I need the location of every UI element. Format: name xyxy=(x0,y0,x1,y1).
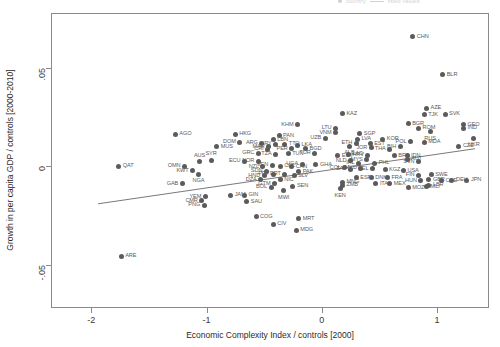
data-point-label: ECU xyxy=(229,158,241,164)
data-point[interactable] xyxy=(190,168,195,173)
data-point[interactable] xyxy=(422,140,427,145)
y-tick-label: -.05 xyxy=(37,265,47,281)
data-point[interactable] xyxy=(347,144,352,149)
data-point[interactable] xyxy=(271,172,276,177)
chart-legend: country fitted values xyxy=(338,0,420,5)
data-point[interactable] xyxy=(333,130,338,135)
data-point[interactable] xyxy=(406,121,411,126)
data-point-label: THA xyxy=(375,147,386,153)
data-point-label: SAU xyxy=(251,199,262,205)
data-point[interactable] xyxy=(312,151,317,156)
data-point[interactable] xyxy=(323,136,328,141)
x-tick-mark xyxy=(207,308,208,313)
data-point[interactable] xyxy=(418,178,423,183)
data-point[interactable] xyxy=(173,132,178,137)
data-point-label: ZMB xyxy=(346,183,358,189)
data-point-label: GRC xyxy=(242,150,254,156)
data-point[interactable] xyxy=(416,159,421,164)
data-point[interactable] xyxy=(383,167,388,172)
data-point[interactable] xyxy=(313,162,318,167)
data-point[interactable] xyxy=(296,216,301,221)
data-point-label: UZB xyxy=(310,135,321,141)
data-point-label: PNG xyxy=(188,202,200,208)
data-point[interactable] xyxy=(197,159,202,164)
data-point[interactable] xyxy=(269,185,274,190)
data-point-label: KGZ xyxy=(389,167,400,173)
data-point[interactable] xyxy=(278,177,283,182)
data-point-label: NGA xyxy=(192,178,204,184)
data-point[interactable] xyxy=(422,112,427,117)
data-point-label: BOL xyxy=(256,184,267,190)
data-point[interactable] xyxy=(456,144,461,149)
data-point-label: BLR xyxy=(447,72,458,78)
data-point[interactable] xyxy=(387,147,392,152)
data-point[interactable] xyxy=(416,126,421,131)
data-point[interactable] xyxy=(443,112,448,117)
data-point-label: DZA xyxy=(246,177,257,183)
data-point[interactable] xyxy=(214,144,219,149)
data-point[interactable] xyxy=(270,163,275,168)
data-point-label: CIV xyxy=(277,222,286,228)
data-point[interactable] xyxy=(392,153,397,158)
data-point[interactable] xyxy=(119,254,124,259)
data-point[interactable] xyxy=(348,167,353,172)
data-point[interactable] xyxy=(116,164,121,169)
scatter-chart-figure: country fitted values CHNBLRAZETJKSVKKAZ… xyxy=(0,0,500,347)
data-point[interactable] xyxy=(338,186,343,191)
data-point[interactable] xyxy=(294,228,299,233)
legend-country-label: country xyxy=(346,0,366,4)
data-point-label: MWI xyxy=(278,195,289,201)
data-point-label: SLV xyxy=(298,173,308,179)
data-point[interactable] xyxy=(410,34,415,39)
data-point[interactable] xyxy=(278,164,283,169)
data-point[interactable] xyxy=(180,181,185,186)
data-point-label: MRT xyxy=(303,216,315,222)
data-point[interactable] xyxy=(364,157,369,162)
data-point[interactable] xyxy=(237,140,242,145)
data-point[interactable] xyxy=(281,188,286,193)
data-point[interactable] xyxy=(300,162,305,167)
data-point[interactable] xyxy=(242,193,247,198)
data-point[interactable] xyxy=(290,184,295,189)
data-point[interactable] xyxy=(398,144,403,149)
data-point[interactable] xyxy=(461,126,466,131)
data-point[interactable] xyxy=(408,139,413,144)
data-point[interactable] xyxy=(471,136,476,141)
data-point-label: HKG xyxy=(239,132,251,138)
data-point[interactable] xyxy=(256,151,261,156)
data-point[interactable] xyxy=(370,166,375,171)
data-point-label: NIC xyxy=(284,177,293,183)
data-point[interactable] xyxy=(295,122,300,127)
data-point[interactable] xyxy=(387,181,392,186)
data-point[interactable] xyxy=(244,199,249,204)
data-point-label: QAT xyxy=(123,164,134,170)
data-point[interactable] xyxy=(254,214,259,219)
data-point[interactable] xyxy=(271,222,276,227)
data-point[interactable] xyxy=(202,203,207,208)
data-point[interactable] xyxy=(209,158,214,163)
data-point[interactable] xyxy=(440,72,445,77)
data-point[interactable] xyxy=(369,175,374,180)
legend-fit-label: fitted values xyxy=(388,0,420,4)
data-point-label: MLI xyxy=(431,184,440,190)
y-tick-label: 0 xyxy=(37,166,47,171)
data-point[interactable] xyxy=(286,151,291,156)
data-point[interactable] xyxy=(369,145,374,150)
data-point[interactable] xyxy=(233,132,238,137)
data-point[interactable] xyxy=(373,181,378,186)
data-point[interactable] xyxy=(228,193,233,198)
data-point[interactable] xyxy=(340,111,345,116)
data-point-label: CHN xyxy=(417,34,429,40)
data-points-layer: CHNBLRAZETJKSVKKAZGEOINDBGRROMRUSKHMLTUV… xyxy=(52,14,488,307)
data-point[interactable] xyxy=(464,178,469,183)
data-point-label: KAZ xyxy=(346,111,357,117)
data-point[interactable] xyxy=(196,172,201,177)
data-point[interactable] xyxy=(428,129,433,134)
data-point[interactable] xyxy=(372,161,377,166)
data-point[interactable] xyxy=(295,143,300,148)
data-point[interactable] xyxy=(273,152,278,157)
data-point[interactable] xyxy=(426,177,431,182)
data-point[interactable] xyxy=(424,184,429,189)
data-point-label: SVK xyxy=(449,112,460,118)
data-point[interactable] xyxy=(406,185,411,190)
